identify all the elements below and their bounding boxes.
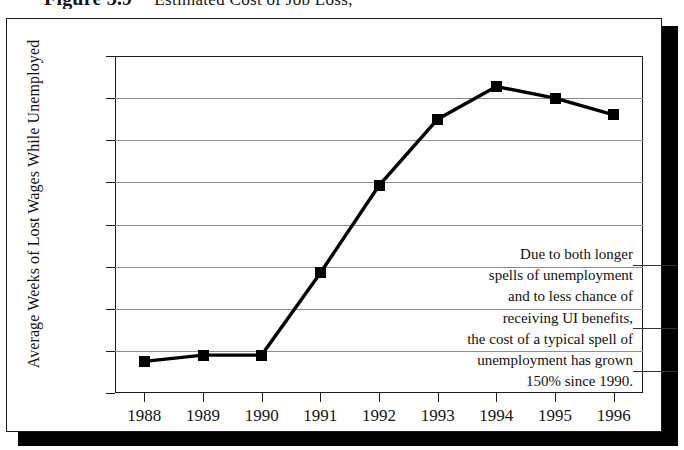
y-tick-mark: [106, 351, 115, 352]
y-tick-mark: [106, 309, 115, 310]
annotation-line: and to less chance of: [401, 286, 633, 307]
data-marker: [432, 114, 443, 125]
leader-line: [633, 265, 677, 266]
y-tick-mark: [106, 225, 115, 226]
page-base: [0, 446, 684, 450]
data-marker: [374, 180, 385, 191]
y-tick-mark: [106, 140, 115, 141]
x-tick-mark: [320, 393, 321, 402]
annotation-line: 150% since 1990.: [401, 371, 633, 392]
x-tick-mark: [144, 393, 145, 402]
data-marker: [550, 93, 561, 104]
leader-line: [633, 328, 677, 329]
y-tick-mark: [106, 393, 115, 394]
y-tick-mark: [106, 182, 115, 183]
y-tick-mark: [106, 56, 115, 57]
x-tick-label: 1996: [579, 406, 649, 426]
x-tick-mark: [555, 393, 556, 402]
y-tick-mark: [106, 98, 115, 99]
data-marker: [608, 109, 619, 120]
plot-area: 81012141618202224 1988198919901991199219…: [115, 56, 643, 393]
chart-annotation: Due to both longerspells of unemployment…: [401, 244, 633, 392]
annotation-line: unemployment has grown: [401, 350, 633, 371]
figure-number: Figure 3.9: [44, 0, 132, 9]
chart-card: Average Weeks of Lost Wages While Unempl…: [6, 18, 662, 432]
x-tick-mark: [496, 393, 497, 402]
x-tick-mark: [438, 393, 439, 402]
y-tick-mark: [106, 267, 115, 268]
x-tick-mark: [614, 393, 615, 402]
data-marker: [198, 350, 209, 361]
annotation-leader-lines: [633, 244, 684, 394]
annotation-line: receiving UI benefits,: [401, 308, 633, 329]
figure-title: Figure 3.9Estimated Cost of Job Loss,: [44, 0, 644, 9]
data-marker: [315, 267, 326, 278]
y-axis-title: Average Weeks of Lost Wages While Unempl…: [25, 29, 43, 379]
data-marker: [139, 356, 150, 367]
annotation-line: Due to both longer: [401, 244, 633, 265]
data-marker: [491, 81, 502, 92]
data-marker: [256, 350, 267, 361]
figure-title-text: Estimated Cost of Job Loss,: [154, 0, 352, 9]
x-tick-mark: [262, 393, 263, 402]
annotation-line: spells of unemployment: [401, 265, 633, 286]
annotation-line: the cost of a typical spell of: [401, 329, 633, 350]
x-tick-mark: [379, 393, 380, 402]
x-tick-mark: [203, 393, 204, 402]
leader-line: [633, 371, 677, 372]
